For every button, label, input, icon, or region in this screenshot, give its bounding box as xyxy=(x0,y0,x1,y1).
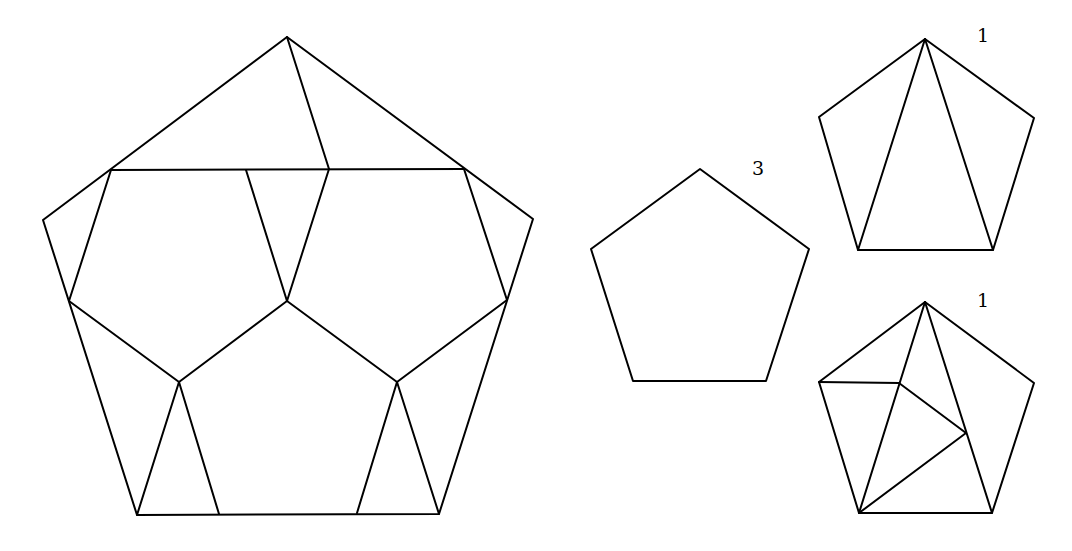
large-pentagon-tiling-segment xyxy=(397,382,439,514)
large-pentagon-tiling-segment xyxy=(69,170,111,301)
large-pentagon-tiling-segment xyxy=(287,169,329,301)
large-pentagon-tiling-segment xyxy=(111,169,464,170)
pentagon-three-triangles-count-label: 1 xyxy=(977,24,989,46)
large-pentagon-tiling-segment xyxy=(179,301,287,382)
pentagon-five-pieces-segment xyxy=(819,382,899,383)
pentagon-three-triangles xyxy=(819,39,1034,250)
pentagon-five-pieces-segment xyxy=(899,383,966,433)
pentagon-three-triangles-segment xyxy=(925,39,993,250)
pentagon-five-pieces-count-label: 1 xyxy=(977,289,989,311)
pentagon-three-triangles-outline xyxy=(819,39,1034,250)
large-pentagon-tiling-segment xyxy=(464,169,507,300)
plain-pentagon xyxy=(591,169,809,381)
large-pentagon-tiling-segment xyxy=(357,382,397,513)
pentagon-five-pieces-segment xyxy=(859,302,925,513)
pentagon-five-pieces-outline xyxy=(819,302,1034,513)
plain-pentagon-count-label: 3 xyxy=(752,157,764,179)
large-pentagon-tiling-segment xyxy=(69,301,179,382)
pentagon-five-pieces xyxy=(819,302,1034,513)
large-pentagon-tiling xyxy=(43,37,533,515)
large-pentagon-tiling-segment xyxy=(287,301,397,382)
diagram-canvas: 3 1 1 xyxy=(0,0,1072,551)
pentagon-three-triangles-segment xyxy=(858,39,925,250)
pentagon-five-pieces-segment xyxy=(925,302,992,513)
large-pentagon-tiling-segment xyxy=(137,382,179,515)
large-pentagon-tiling-segment xyxy=(179,382,219,514)
large-pentagon-tiling-outline xyxy=(43,37,533,515)
large-pentagon-tiling-segment xyxy=(287,37,329,169)
pentagon-five-pieces-segment xyxy=(859,433,966,513)
large-pentagon-tiling-segment xyxy=(246,170,287,301)
large-pentagon-tiling-segment xyxy=(397,300,507,382)
plain-pentagon-outline xyxy=(591,169,809,381)
